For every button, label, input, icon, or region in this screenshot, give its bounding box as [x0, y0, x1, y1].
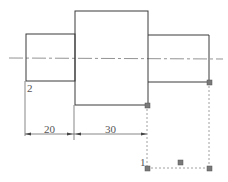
- dimension-label-20: 20: [44, 124, 55, 135]
- drawing-canvas[interactable]: 2 20 30 1: [0, 0, 228, 182]
- arrow-icon: [75, 133, 81, 136]
- shaft-drawing: [0, 0, 228, 182]
- left-shaft-section[interactable]: [26, 34, 75, 81]
- dimension-label-30: 30: [105, 124, 116, 135]
- grip-handle[interactable]: [207, 166, 212, 171]
- grip-handle[interactable]: [207, 80, 212, 85]
- centerline: [9, 58, 223, 59]
- grip-handle[interactable]: [178, 160, 183, 165]
- grip-handle[interactable]: [145, 103, 150, 108]
- arrow-icon: [67, 133, 73, 136]
- grip-handle[interactable]: [145, 166, 150, 171]
- arrow-icon: [141, 133, 147, 136]
- point-label-1: 1: [140, 157, 146, 168]
- point-label-2: 2: [27, 83, 33, 94]
- arrow-icon: [25, 133, 31, 136]
